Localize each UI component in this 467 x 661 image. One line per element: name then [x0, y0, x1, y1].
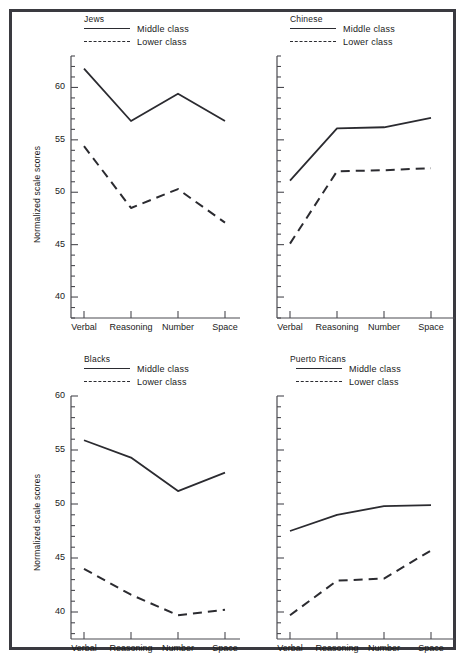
legend-middle-class-jews: Middle class — [84, 24, 189, 34]
legend-line-dashed-icon — [84, 377, 130, 387]
y-tick-label: 55 — [37, 444, 65, 454]
legend-lower-class-puerto-ricans: Lower class — [296, 377, 399, 387]
panel-title-puerto-ricans: Puerto Ricans — [290, 354, 346, 364]
series-line-solid — [290, 505, 431, 531]
y-tick-label: 40 — [37, 606, 65, 616]
legend-line-solid-icon — [84, 364, 130, 374]
panel-title-jews: Jews — [84, 14, 104, 24]
legend-label-lower-class: Lower class — [137, 37, 187, 47]
panel-puerto-ricans: Puerto Ricans Middle class Lower class V… — [206, 314, 461, 661]
panel-blacks: Blacks Middle class Lower class Normaliz… — [0, 314, 240, 661]
plot-area-chinese — [206, 0, 461, 340]
series-line-solid — [84, 69, 225, 121]
panel-jews: Jews Middle class Lower class Normalized… — [0, 0, 240, 340]
legend-label-middle-class: Middle class — [137, 364, 189, 374]
series-line-dashed — [84, 146, 225, 223]
series-line-solid — [84, 440, 225, 491]
legend-label-lower-class: Lower class — [349, 377, 399, 387]
legend-label-middle-class: Middle class — [349, 364, 401, 374]
x-tick-label: Space — [397, 643, 465, 653]
figure-root: Jews Middle class Lower class Normalized… — [0, 0, 467, 661]
legend-line-solid-icon — [84, 24, 130, 34]
y-tick-label: 50 — [37, 186, 65, 196]
legend-lower-class-blacks: Lower class — [84, 377, 187, 387]
series-line-dashed — [84, 569, 225, 615]
legend-line-dashed-icon — [296, 377, 342, 387]
legend-line-dashed-icon — [290, 37, 336, 47]
panel-chinese: Chinese Middle class Lower class VerbalR… — [206, 0, 461, 340]
legend-lower-class-chinese: Lower class — [290, 37, 393, 47]
y-tick-label: 60 — [37, 81, 65, 91]
series-line-dashed — [290, 550, 431, 615]
legend-label-middle-class: Middle class — [343, 24, 395, 34]
panel-title-blacks: Blacks — [84, 354, 110, 364]
y-tick-label: 55 — [37, 134, 65, 144]
legend-middle-class-chinese: Middle class — [290, 24, 395, 34]
legend-label-lower-class: Lower class — [343, 37, 393, 47]
legend-lower-class-jews: Lower class — [84, 37, 187, 47]
legend-line-dashed-icon — [84, 37, 130, 47]
legend-line-solid-icon — [290, 24, 336, 34]
legend-label-lower-class: Lower class — [137, 377, 187, 387]
legend-middle-class-blacks: Middle class — [84, 364, 189, 374]
series-line-dashed — [290, 168, 431, 243]
y-tick-label: 60 — [37, 390, 65, 400]
y-tick-label: 40 — [37, 291, 65, 301]
legend-middle-class-puerto-ricans: Middle class — [296, 364, 401, 374]
y-tick-label: 45 — [37, 552, 65, 562]
y-tick-label: 45 — [37, 239, 65, 249]
legend-line-solid-icon — [296, 364, 342, 374]
y-tick-label: 50 — [37, 498, 65, 508]
panel-title-chinese: Chinese — [290, 14, 323, 24]
legend-label-middle-class: Middle class — [137, 24, 189, 34]
